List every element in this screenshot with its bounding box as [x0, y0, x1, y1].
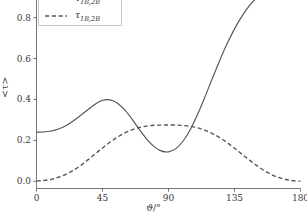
y-tick-label: 0.6	[0, 54, 31, 64]
x-axis-label: ϑ/°	[0, 202, 307, 213]
legend-label-dashed-subscript: 1B,2B	[80, 14, 100, 22]
axis-spines	[37, 0, 301, 189]
y-tick-label: 0.0	[0, 176, 31, 186]
x-axis-label-symbol: ϑ	[146, 202, 153, 213]
chart-figure: 0.00.20.40.60.8 04590135180 <τ> ϑ/° τ1B,…	[0, 0, 307, 220]
line-series-dashed	[37, 125, 301, 181]
y-tick-label: 0.2	[0, 135, 31, 145]
legend-entry-dashed: τ1B,2B	[39, 8, 121, 24]
x-axis-label-unit: /°	[153, 202, 161, 213]
x-axis-ticks	[37, 189, 301, 192]
legend-label-solid: τ1B,2B̅	[75, 0, 100, 5]
y-axis-label: <τ>	[0, 77, 10, 98]
plot-canvas	[0, 0, 307, 220]
y-tick-label: 0.8	[0, 13, 31, 23]
chart-legend: τ1B,2B̅ τ1B,2B	[38, 0, 122, 26]
legend-swatch-dashed-icon	[44, 11, 68, 21]
legend-swatch-solid-icon	[44, 0, 68, 4]
legend-entry-solid: τ1B,2B̅	[39, 0, 121, 7]
y-axis-ticks	[33, 18, 36, 182]
legend-label-dashed: τ1B,2B	[75, 10, 100, 23]
legend-label-solid-subscript: 1B,2B̅	[80, 0, 100, 5]
